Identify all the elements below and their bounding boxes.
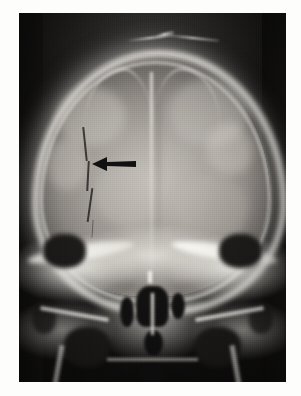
oropharyngeal-air [139,364,166,382]
orbit-right [219,234,262,267]
orbit-left [43,234,86,267]
hard-palate [107,358,198,361]
maxillary-sinus-left [64,327,109,368]
diploe-blob-8 [46,138,89,190]
radiograph-film [19,13,286,382]
ethmoid-air-cell-right [171,293,184,319]
fracture-arrow [92,156,136,172]
arrow-icon [92,156,136,172]
nasal-septum [151,293,154,335]
crista-galli [148,271,152,283]
ethmoid-air-cell-left [120,297,133,327]
figure-page [0,0,301,396]
